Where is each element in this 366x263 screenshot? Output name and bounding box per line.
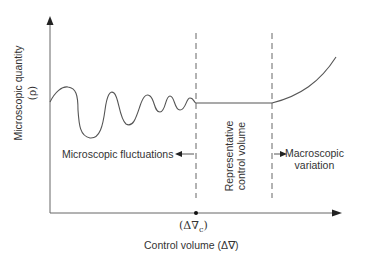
critical-volume-label: (Δ∇c) — [179, 219, 208, 234]
representative-volume-label: Representative control volume — [200, 108, 270, 204]
macro-line2: variation — [285, 159, 344, 171]
marker-text: (Δ∇ — [179, 219, 199, 232]
x-axis-arrow-icon — [332, 210, 342, 217]
y-axis-arrow-icon — [47, 16, 54, 25]
microscopic-fluctuations-label: Microscopic fluctuations — [62, 148, 173, 160]
critical-volume-marker — [194, 211, 198, 215]
rcv-line2: control volume — [235, 121, 247, 192]
rcv-line1: Representative — [223, 121, 235, 192]
marker-close: ) — [203, 219, 207, 232]
macroscopic-variation-curve — [272, 57, 336, 103]
x-axis-label: Control volume (Δ∇) — [144, 239, 239, 251]
macro-line1: Macroscopic — [285, 147, 344, 159]
y-axis-title: Microscopic quantity — [11, 45, 25, 140]
left-arrow-icon — [175, 151, 182, 157]
microscopic-fluctuation-curve — [50, 87, 196, 138]
y-axis-label: Microscopic quantity (ρ) — [2, 28, 48, 158]
macroscopic-variation-label: Macroscopic variation — [285, 147, 344, 171]
y-axis-symbol: (ρ) — [25, 45, 39, 140]
